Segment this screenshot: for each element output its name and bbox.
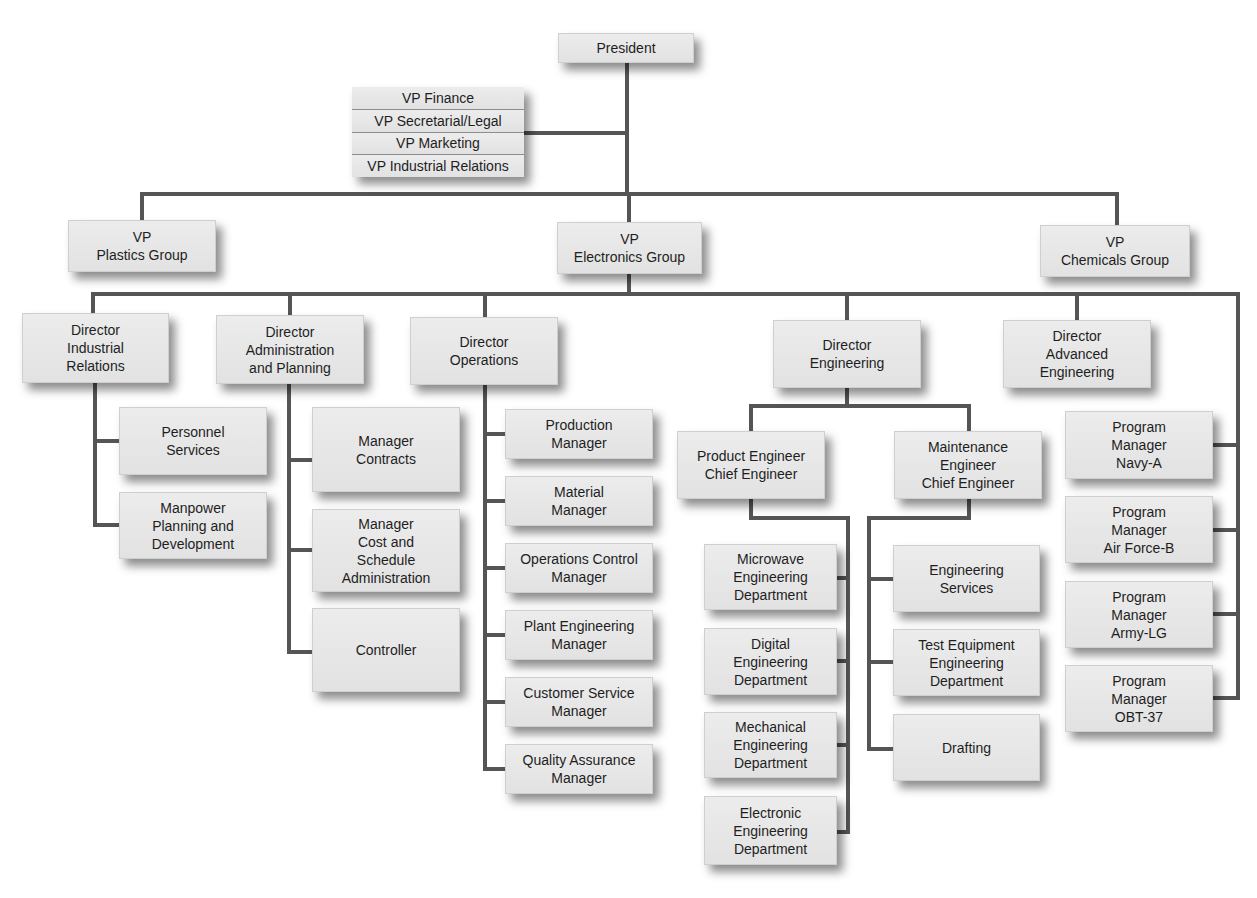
node-pm-army-lg[interactable]: Program Manager Army-LG xyxy=(1065,581,1213,648)
node-dir-operations[interactable]: Director Operations xyxy=(410,317,558,385)
node-president[interactable]: President xyxy=(558,33,694,63)
node-customer-service-manager[interactable]: Customer Service Manager xyxy=(505,677,653,727)
node-pm-air-force-b[interactable]: Program Manager Air Force-B xyxy=(1065,496,1213,563)
node-manager-contracts[interactable]: Manager Contracts xyxy=(312,407,460,492)
staff-vp-stack: VP Finance VP Secretarial/Legal VP Marke… xyxy=(352,87,524,177)
node-vp-plastics[interactable]: VP Plastics Group xyxy=(68,220,216,272)
node-drafting[interactable]: Drafting xyxy=(893,714,1040,781)
node-pm-navy-a[interactable]: Program Manager Navy-A xyxy=(1065,411,1213,479)
node-vp-marketing[interactable]: VP Marketing xyxy=(352,133,524,156)
node-microwave-eng-dept[interactable]: Microwave Engineering Department xyxy=(704,544,837,610)
node-vp-finance[interactable]: VP Finance xyxy=(352,87,524,110)
node-digital-eng-dept[interactable]: Digital Engineering Department xyxy=(704,628,837,695)
node-vp-industrial-relations[interactable]: VP Industrial Relations xyxy=(352,155,524,177)
node-operations-control-manager[interactable]: Operations Control Manager xyxy=(505,543,653,593)
connector-line xyxy=(751,388,847,431)
node-material-manager[interactable]: Material Manager xyxy=(505,476,653,526)
connector-line xyxy=(289,384,312,652)
node-maintenance-engineer-chief[interactable]: Maintenance Engineer Chief Engineer xyxy=(894,431,1042,499)
node-electronic-eng-dept[interactable]: Electronic Engineering Department xyxy=(704,796,837,865)
node-dir-admin-planning[interactable]: Director Administration and Planning xyxy=(216,315,364,384)
node-personnel-services[interactable]: Personnel Services xyxy=(119,407,267,475)
node-controller[interactable]: Controller xyxy=(312,608,460,692)
node-product-engineer-chief[interactable]: Product Engineer Chief Engineer xyxy=(677,431,825,499)
node-dir-industrial-relations[interactable]: Director Industrial Relations xyxy=(22,313,169,383)
node-vp-chemicals[interactable]: VP Chemicals Group xyxy=(1040,225,1190,277)
node-plant-engineering-manager[interactable]: Plant Engineering Manager xyxy=(505,610,653,660)
node-dir-advanced-engineering[interactable]: Director Advanced Engineering xyxy=(1003,320,1151,388)
node-vp-secretarial-legal[interactable]: VP Secretarial/Legal xyxy=(352,110,524,133)
node-dir-engineering[interactable]: Director Engineering xyxy=(773,320,921,388)
node-quality-assurance-manager[interactable]: Quality Assurance Manager xyxy=(505,744,653,794)
node-vp-electronics[interactable]: VP Electronics Group xyxy=(557,222,702,274)
connector-line xyxy=(869,499,969,749)
node-production-manager[interactable]: Production Manager xyxy=(505,409,653,459)
node-pm-obt-37[interactable]: Program Manager OBT-37 xyxy=(1065,665,1213,732)
connector-line xyxy=(847,406,969,431)
node-manpower-planning[interactable]: Manpower Planning and Development xyxy=(119,492,267,559)
node-manager-cost-schedule[interactable]: Manager Cost and Schedule Administration xyxy=(312,509,460,592)
node-test-equipment-eng-dept[interactable]: Test Equipment Engineering Department xyxy=(893,629,1040,696)
connector-line xyxy=(95,383,119,525)
node-mechanical-eng-dept[interactable]: Mechanical Engineering Department xyxy=(704,712,837,778)
node-engineering-services[interactable]: Engineering Services xyxy=(893,545,1040,612)
org-chart: President VP Finance VP Secretarial/Lega… xyxy=(0,0,1257,898)
connector-line xyxy=(485,385,505,769)
